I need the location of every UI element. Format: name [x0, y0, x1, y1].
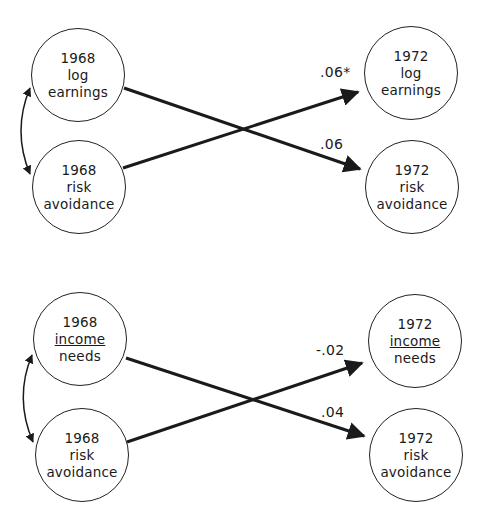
node-line1: income [55, 331, 106, 348]
node-line1: log [400, 65, 421, 82]
node-1968-log-earnings: 1968 log earnings [31, 28, 125, 122]
node-year: 1968 [62, 314, 97, 331]
coef-logearn-to-risk: .06 [320, 136, 343, 152]
node-1972-income-needs: 1972 income needs [368, 294, 462, 388]
node-line2: needs [59, 348, 101, 365]
node-line2: earnings [381, 82, 441, 99]
node-line2: avoidance [376, 196, 447, 213]
node-1972-log-earnings: 1972 log earnings [364, 26, 458, 120]
node-line1: log [67, 67, 88, 84]
node-1972-risk-avoidance-top: 1972 risk avoidance [365, 140, 459, 234]
node-1972-risk-avoidance-bottom: 1972 risk avoidance [369, 408, 463, 502]
correlation-arrow-bottom [23, 355, 33, 442]
node-year: 1972 [394, 162, 429, 179]
node-year: 1968 [60, 50, 95, 67]
node-line1: risk [400, 179, 425, 196]
coef-risk-to-logearn: .06* [320, 64, 350, 80]
node-line1: risk [404, 447, 429, 464]
node-year: 1968 [61, 162, 96, 179]
coef-income-to-risk: .04 [321, 404, 344, 420]
node-line1: income [390, 333, 441, 350]
coef-risk-to-income: -.02 [316, 342, 345, 358]
node-line2: avoidance [46, 464, 117, 481]
node-year: 1972 [393, 48, 428, 65]
node-1968-income-needs: 1968 income needs [33, 292, 127, 386]
node-year: 1972 [397, 316, 432, 333]
node-line2: needs [394, 350, 436, 367]
node-line2: avoidance [380, 464, 451, 481]
node-1968-risk-avoidance-bottom: 1968 risk avoidance [35, 408, 129, 502]
node-line2: earnings [48, 84, 108, 101]
path-risk-to-income-bottom [127, 363, 362, 442]
node-year: 1968 [64, 430, 99, 447]
path-income-to-risk-bottom [126, 358, 364, 436]
node-1968-risk-avoidance-top: 1968 risk avoidance [32, 140, 126, 234]
node-line2: avoidance [43, 196, 114, 213]
node-line1: risk [67, 179, 92, 196]
node-year: 1972 [398, 430, 433, 447]
node-line1: risk [70, 447, 95, 464]
correlation-arrow-top [21, 88, 30, 174]
